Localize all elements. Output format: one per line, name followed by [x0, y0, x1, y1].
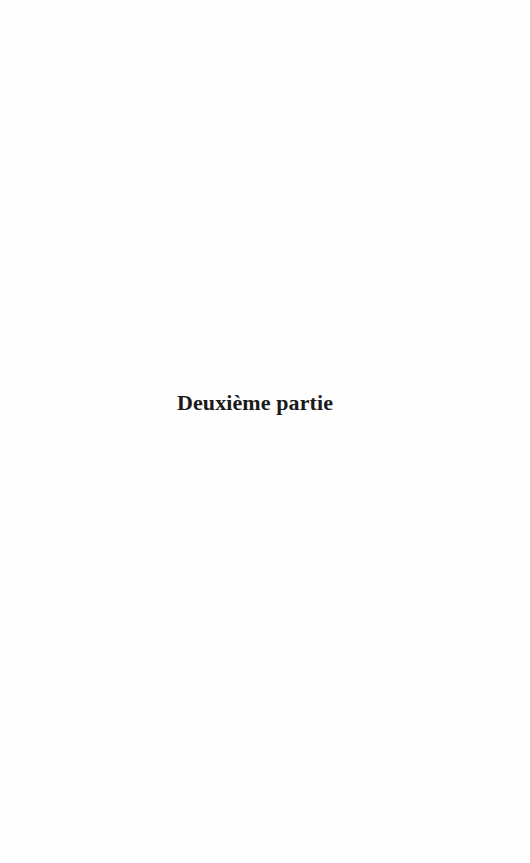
part-heading: Deuxième partie [0, 389, 510, 417]
book-page: Deuxième partie [0, 0, 530, 863]
